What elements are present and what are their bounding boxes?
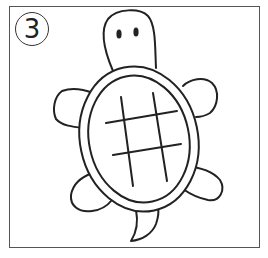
turtle-illustration [0, 0, 268, 258]
turtle-left-eye [116, 30, 121, 39]
turtle-tail [131, 208, 158, 241]
turtle-head [104, 10, 156, 71]
turtle-right-eye [133, 28, 138, 37]
